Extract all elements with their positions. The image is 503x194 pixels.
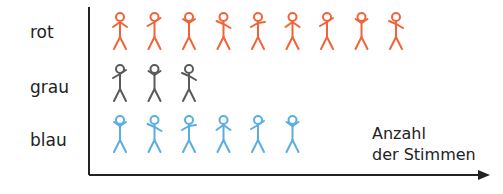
x-axis-label-line2: der Stimmen	[372, 144, 476, 165]
figure-rows	[113, 13, 403, 152]
stick-figure-icon	[356, 13, 368, 49]
x-axis-label: Anzahl der Stimmen	[372, 123, 476, 165]
x-axis-arrowhead-icon	[478, 170, 490, 180]
stick-figure-icon	[148, 13, 161, 49]
stick-figure-icon	[149, 65, 161, 101]
stick-figure-icon	[182, 65, 196, 101]
stick-figure-icon	[251, 13, 265, 49]
stick-figure-icon	[287, 116, 299, 152]
stick-figure-icon	[113, 13, 127, 49]
stick-figure-icon	[217, 116, 231, 152]
stick-figure-icon	[217, 13, 231, 49]
figure-row-rot	[113, 13, 403, 49]
stick-figure-icon	[320, 13, 333, 49]
x-axis-label-line1: Anzahl	[372, 123, 476, 144]
figure-row-blau	[114, 116, 299, 152]
stick-figure-icon	[183, 13, 195, 49]
stick-figure-icon	[251, 116, 264, 152]
stick-figure-icon	[148, 116, 162, 152]
stick-figure-icon	[389, 13, 403, 49]
stick-figure-icon	[114, 116, 126, 152]
stick-figure-icon	[113, 65, 126, 101]
figure-row-grau	[113, 65, 196, 101]
stick-figure-icon	[182, 116, 196, 152]
stick-figure-icon	[286, 13, 300, 49]
